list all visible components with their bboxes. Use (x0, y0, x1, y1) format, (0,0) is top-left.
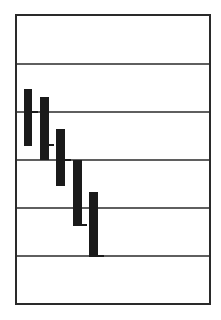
bar-5 (89, 192, 104, 256)
bars (24, 89, 104, 256)
bar-4 (73, 160, 87, 225)
range-bar (73, 160, 82, 225)
bar-2 (40, 97, 54, 160)
range-bar (89, 192, 98, 256)
bar-3 (56, 129, 71, 186)
range-bar (56, 129, 65, 186)
hlc-chart (0, 0, 221, 320)
range-bar (24, 89, 32, 146)
range-bar (40, 97, 49, 160)
bar-1 (24, 89, 38, 146)
